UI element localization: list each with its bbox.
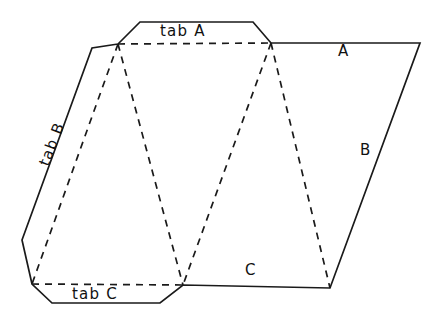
label-face-b: B [360, 143, 370, 158]
label-tab-a: tab A [160, 24, 206, 39]
label-tab-c: tab C [72, 287, 118, 302]
label-face-c: C [245, 263, 255, 278]
net-diagram-figure: tab A tab B tab C A B C [0, 0, 441, 327]
net-diagram-svg [0, 0, 441, 327]
label-face-a: A [338, 44, 348, 59]
